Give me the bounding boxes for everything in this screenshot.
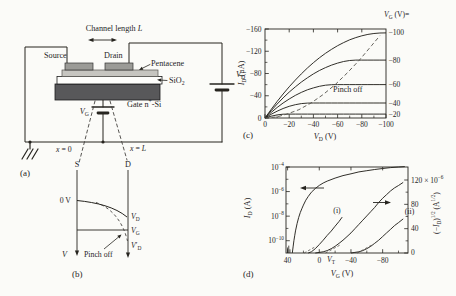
pinch-off-locus-dashed — [265, 36, 380, 118]
drain-electrode — [105, 63, 133, 70]
wire-junction-dot — [101, 140, 104, 143]
panel-c-xlabel: VD (V) — [314, 132, 337, 142]
wire-junction-dot — [28, 140, 31, 143]
vd-level-label: VD — [131, 212, 140, 222]
gate-label: Gate n+-Si — [127, 98, 162, 108]
threshold-extrapolation-dashed-2 — [357, 245, 371, 253]
panel-d-plot: 400−40−80 — [284, 167, 408, 265]
curve-label-vg-100: −100 — [389, 28, 405, 37]
panel-d-left-ylabel: ID (A) — [243, 198, 253, 220]
log-transfer-curve — [292, 167, 405, 253]
panel-d-xlabel: VG (V) — [331, 269, 354, 279]
gate-layer — [55, 84, 160, 100]
sqrt-transfer-curve-1 — [315, 182, 403, 253]
x-tick-label: 40 — [284, 256, 292, 265]
drain-terminal-label: D — [125, 160, 131, 169]
right-tick-0: 0 — [411, 248, 415, 257]
v-axis-label: V — [62, 250, 68, 259]
x-tick-label: −80 — [356, 120, 368, 129]
left-tick-1e-10: 10−10 — [268, 235, 284, 245]
panel-c-plot: 0−20−40−60−80−1000−40−80−120−160 — [246, 25, 394, 129]
y-tick-label: −120 — [246, 47, 262, 56]
panel-c-letter: (c) — [243, 130, 253, 140]
curve-label-vg-20: −20 — [389, 110, 401, 119]
panel-b-letter: (b) — [72, 269, 83, 279]
right-tick-120: 120 × 10−6 — [411, 174, 444, 184]
panel-b: S D 0 V V VD VG V′D Pinch off (b) — [60, 160, 142, 279]
output-curve-vg-100 — [265, 33, 386, 118]
vt-label: VT — [327, 255, 336, 265]
panel-c-frame — [265, 29, 386, 118]
x-tick-label: −40 — [345, 256, 357, 265]
x0-label: x = 0 — [55, 145, 72, 154]
pinch-off-arrow — [104, 237, 119, 249]
drain-label: Drain — [104, 51, 123, 60]
pinch-off-label: Pinch off — [84, 250, 113, 259]
y-tick-label: −80 — [250, 69, 262, 78]
output-curve-vg-60 — [265, 85, 386, 118]
x-tick-label: −80 — [377, 256, 389, 265]
drain-axis-arrow-head — [126, 253, 130, 259]
figure-canvas: Channel length L Source Drain Pentacene … — [0, 0, 456, 296]
left-tick-1e-4: 10−4 — [271, 161, 284, 171]
panel-c-pinch-off-label: Pinch off — [333, 85, 363, 94]
left-tick-1e-6: 10−6 — [271, 186, 284, 196]
x-tick-label: −40 — [308, 120, 320, 129]
panel-c: 0−20−40−60−80−1000−40−80−120−160 VD (V) … — [237, 10, 409, 142]
y-tick-label: 0 — [258, 114, 262, 123]
pentacene-callout-arrow — [143, 65, 151, 69]
curve-label-vg-80: −80 — [389, 56, 401, 65]
pentacene-label: Pentacene — [151, 59, 185, 68]
source-label: Source — [44, 51, 67, 60]
right-axis-arrow-head — [385, 200, 391, 204]
zero-volt-label: 0 V — [60, 196, 72, 205]
x-tick-label: 0 — [317, 256, 321, 265]
pentacene-layer — [62, 70, 158, 77]
threshold-extrapolation-dashed-1 — [326, 245, 340, 253]
ground-symbol — [22, 142, 38, 159]
panel-a: Channel length L Source Drain Pentacene … — [20, 24, 245, 178]
vd-prime-level-label: V′D — [131, 241, 141, 251]
vg-level-label: VG — [131, 226, 140, 236]
source-terminal-label: S — [75, 160, 80, 169]
panel-d-letter: (d) — [243, 269, 254, 279]
panel-c-ylabel: ID (μA) — [237, 60, 247, 86]
y-tick-label: −160 — [246, 25, 262, 34]
left-axis-arrow-head — [300, 186, 306, 190]
v-axis-arrow-head — [75, 251, 79, 257]
panel-d-right-ylabel: (−ID)1/2 (A1/2) — [430, 192, 441, 234]
left-tick-1e-8: 10−8 — [271, 210, 284, 220]
channel-arrow-right-head — [112, 38, 118, 42]
panel-d-frame — [286, 167, 408, 253]
channel-length-label: Channel length L — [86, 24, 143, 33]
right-tick-40: 40 — [411, 224, 419, 233]
xl-label: x = L — [129, 144, 146, 153]
sio2-layer — [57, 77, 162, 85]
vg-label: VG — [80, 107, 89, 117]
sio2-label: SiO2 — [169, 76, 185, 86]
figure-svg: Channel length L Source Drain Pentacene … — [0, 0, 456, 296]
curve-label-vg-40: −40 — [389, 99, 401, 108]
y-tick-label: −40 — [250, 91, 262, 100]
xl-projection-dashed — [110, 101, 127, 160]
x-tick-label: −60 — [332, 120, 344, 129]
channel-potential-curve — [77, 201, 127, 218]
curve-label-vg-60: −60 — [389, 80, 401, 89]
panel-c-legend-header: VG (V)= — [384, 10, 409, 20]
x-tick-label: 0 — [263, 120, 267, 129]
panel-a-letter: (a) — [20, 168, 30, 178]
x-tick-label: −100 — [378, 120, 394, 129]
channel-arrow-left-head — [88, 38, 94, 42]
curve-i-label: (i) — [333, 206, 341, 215]
output-curve-vg-80 — [265, 60, 386, 118]
source-electrode — [65, 63, 93, 70]
panel-d: 400−40−80 VG (V) ID (A) (−ID)1/2 (A1/2) … — [243, 161, 444, 279]
curve-ii-label: (ii) — [405, 207, 415, 216]
x-tick-label: −20 — [283, 120, 295, 129]
